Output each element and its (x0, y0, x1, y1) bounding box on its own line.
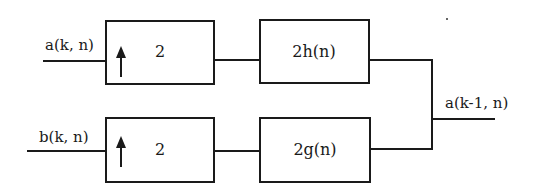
sum-junction (369, 60, 432, 149)
stray-dot (446, 18, 448, 20)
output-label: a(k-1, n) (445, 94, 508, 112)
filter-bank-diagram: a(k, n) 2 2h(n) b(k, n) 2 2g(n) a(k-1, n… (0, 0, 542, 196)
filter-label-bottom: 2g(n) (293, 140, 336, 159)
input-label-bottom: b(k, n) (39, 128, 89, 146)
filter-label-top: 2h(n) (292, 42, 335, 61)
upsampler-factor-bottom: 2 (155, 140, 165, 159)
input-label-top: a(k, n) (45, 36, 94, 54)
upsampler-factor-top: 2 (155, 42, 165, 61)
